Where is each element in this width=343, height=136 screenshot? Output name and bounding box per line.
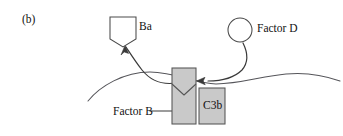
- bb-box-shape: [172, 68, 196, 124]
- factor-d-circle-shape: [228, 18, 252, 42]
- c3b-label: C3b: [203, 100, 222, 112]
- ba-release-arrow-line: [126, 47, 176, 83]
- ba-label: Ba: [139, 21, 152, 33]
- figure-panel-b: (b) Ba Factor D Factor B C3b: [0, 0, 343, 136]
- factor-d-arrow-line: [208, 43, 247, 81]
- panel-letter-label: (b): [22, 14, 35, 26]
- factor-d-label: Factor D: [257, 23, 298, 35]
- figure-graphics: [0, 0, 343, 136]
- ba-fragment-shape: [110, 17, 136, 47]
- factor-d-arrowhead: [197, 77, 206, 85]
- factor-b-label: Factor B: [113, 106, 153, 118]
